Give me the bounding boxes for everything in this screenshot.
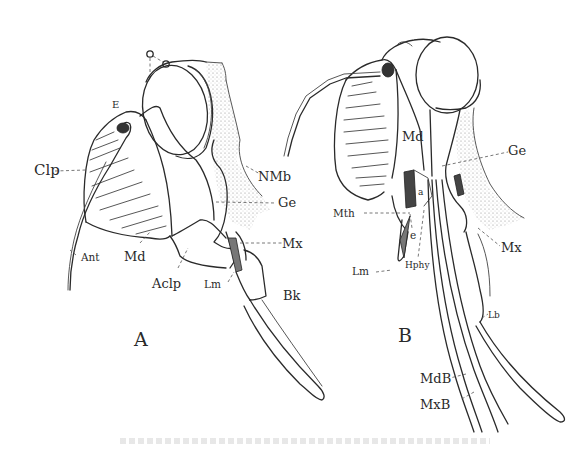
label-b-labrum: Lm bbox=[352, 266, 369, 277]
label-a-antenna: Ant bbox=[81, 252, 100, 263]
panel-label-a: A bbox=[134, 330, 148, 349]
label-a-labrum: Lm bbox=[204, 279, 221, 290]
label-b-labium: Lb bbox=[488, 311, 500, 320]
label-a-beak: Bk bbox=[283, 289, 300, 302]
label-b-maxillary-bristle: MxB bbox=[420, 398, 450, 411]
label-b-gena: Ge bbox=[508, 144, 526, 157]
label-b-mandible: Md bbox=[402, 130, 424, 143]
figure-caption-fragment bbox=[120, 438, 490, 444]
label-b-hypopharynx: Hphy bbox=[405, 261, 430, 270]
label-a-eye: E bbox=[112, 100, 119, 110]
label-a-anteclypeus: Aclp bbox=[152, 277, 181, 290]
panel-label-b: B bbox=[398, 326, 412, 345]
diagram-drawing bbox=[0, 0, 587, 452]
label-a-mandible: Md bbox=[124, 250, 146, 263]
label-b-maxilla: Mx bbox=[501, 241, 522, 254]
label-a-maxilla: Mx bbox=[282, 237, 303, 250]
panel-a-drawing bbox=[55, 51, 324, 400]
label-a-gena: Ge bbox=[278, 196, 296, 209]
label-b-apodeme: a bbox=[418, 188, 423, 197]
label-b-mouth: Mth bbox=[333, 208, 355, 219]
label-a-clypeus: Clp bbox=[34, 163, 60, 178]
insect-head-diagram: E Clp NMb Ge Mx Ant Md Aclp Lm Bk A Md G… bbox=[0, 0, 587, 452]
label-a-neck-membrane: NMb bbox=[258, 170, 291, 183]
label-b-mandibular-bristle: MdB bbox=[420, 372, 451, 385]
label-b-epipharynx: e bbox=[410, 230, 416, 241]
